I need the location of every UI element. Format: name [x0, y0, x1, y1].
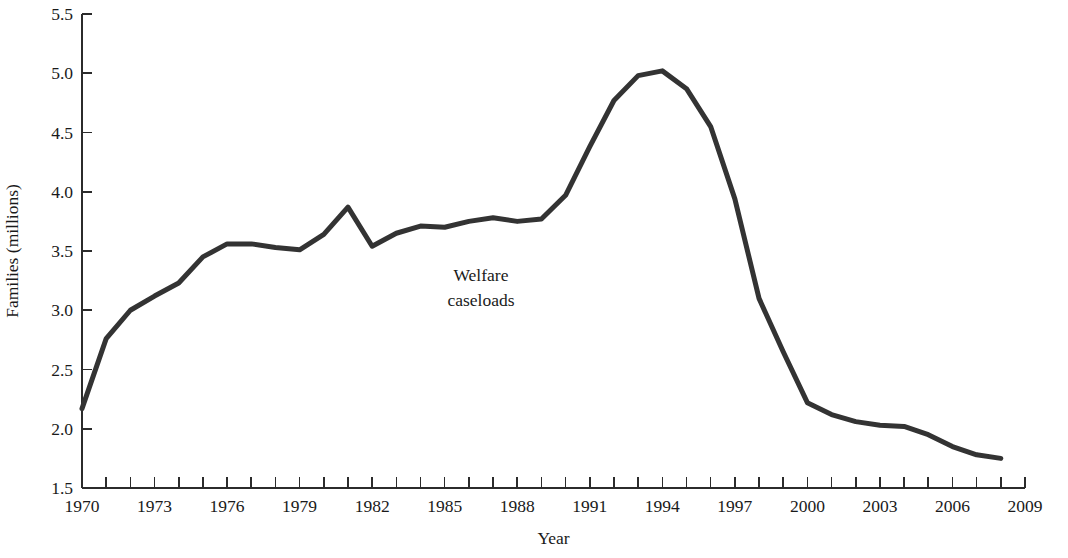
y-axis: 1.52.02.53.03.54.04.55.05.5	[51, 4, 92, 498]
annotation-line-1: Welfare	[453, 265, 508, 285]
x-tick-label: 1985	[427, 496, 462, 516]
x-tick-label: 2000	[790, 496, 825, 516]
x-tick-label: 1976	[210, 496, 245, 516]
series-annotation-group: Welfarecaseloads	[447, 265, 514, 310]
x-tick-label: 1991	[572, 496, 607, 516]
x-tick-label: 2006	[935, 496, 970, 516]
y-tick-label: 4.5	[51, 123, 73, 143]
y-tick-label: 2.5	[51, 360, 73, 380]
x-tick-label: 1988	[500, 496, 535, 516]
x-axis: 1970197319761979198219851988199119941997…	[65, 477, 1043, 516]
y-tick-label: 2.0	[51, 419, 73, 439]
x-tick-label: 1997	[717, 496, 752, 516]
x-axis-title: Year	[537, 528, 569, 548]
x-tick-label: 1994	[645, 496, 680, 516]
x-tick-label: 1973	[137, 496, 172, 516]
x-tick-label: 2009	[1008, 496, 1043, 516]
data-series-group	[82, 71, 1001, 459]
y-tick-label: 4.0	[51, 182, 73, 202]
data-line-welfare-caseloads	[82, 71, 1001, 459]
annotation-line-2: caseloads	[447, 290, 514, 310]
welfare-caseloads-line-chart: 1.52.02.53.03.54.04.55.05.5 197019731976…	[0, 0, 1068, 558]
y-axis-title: Families (millions)	[2, 184, 22, 318]
y-tick-label: 3.0	[51, 300, 73, 320]
y-tick-label: 5.5	[51, 4, 73, 24]
x-tick-label: 1982	[355, 496, 390, 516]
chart-figure: 1.52.02.53.03.54.04.55.05.5 197019731976…	[0, 0, 1068, 558]
x-tick-label: 1970	[65, 496, 100, 516]
y-tick-label: 5.0	[51, 63, 73, 83]
x-tick-label: 2003	[862, 496, 897, 516]
y-tick-label: 1.5	[51, 478, 73, 498]
x-tick-label: 1979	[282, 496, 317, 516]
y-tick-label: 3.5	[51, 241, 73, 261]
